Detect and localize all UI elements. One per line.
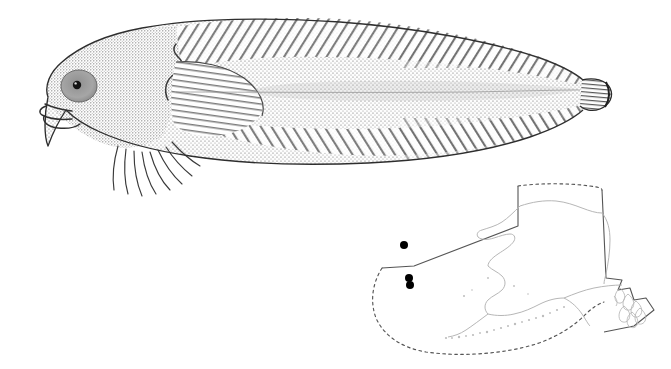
occurrence-point[interactable]: [400, 241, 408, 249]
eez-boundary: [373, 184, 604, 355]
occurrence-point[interactable]: [406, 281, 414, 289]
species-plate: Alaska snailfish: [0, 0, 671, 369]
alaska-coastline: [448, 201, 622, 337]
occurrence-point[interactable]: [405, 274, 413, 282]
distribution-map: [368, 168, 668, 358]
southeast-panhandle: [614, 288, 646, 328]
occurrence-points: [400, 241, 414, 289]
aleutian-chain: [445, 277, 565, 339]
